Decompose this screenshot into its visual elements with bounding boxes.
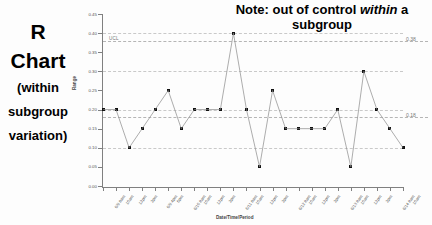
caption-line-2: Chart — [11, 48, 66, 74]
chart-area: Range Date/Time/Period 0.450.400.350.300… — [76, 6, 428, 221]
caption-sub-line-3: variation) — [9, 126, 68, 146]
caption-sub-line-2: subgroup — [8, 102, 68, 122]
caption-line-1: R — [30, 20, 45, 44]
series-polyline — [76, 6, 428, 221]
caption-sub-line-1: (within — [17, 78, 59, 98]
figure-caption: R Chart (within subgroup variation) — [0, 14, 76, 214]
r-chart-figure: R Chart (within subgroup variation) Note… — [0, 0, 432, 225]
